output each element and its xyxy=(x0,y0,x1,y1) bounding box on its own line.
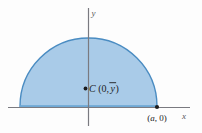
edge-point-label: (a, 0) xyxy=(147,113,167,123)
semicircle-centroid-diagram: y x C(0,y) (a, 0) xyxy=(0,0,202,133)
edge-point-dot xyxy=(155,105,159,109)
centroid-label: C(0,y) xyxy=(89,83,119,95)
centroid-label-group: C(0,y) xyxy=(89,83,119,95)
centroid-label-close: ) xyxy=(115,83,118,95)
centroid-point-dot xyxy=(84,87,88,91)
centroid-label-open: (0, xyxy=(98,83,109,95)
x-axis-label: x xyxy=(181,111,186,121)
y-axis-label: y xyxy=(91,8,96,18)
figure-container: y x C(0,y) (a, 0) xyxy=(0,0,202,133)
centroid-label-symbol: C xyxy=(89,83,96,94)
edge-label-close: , 0) xyxy=(155,113,167,123)
